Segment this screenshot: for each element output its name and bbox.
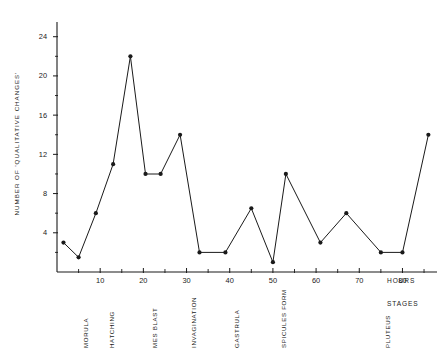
chart-figure: NUMBER OF 'QUALITATIVE CHANGES' 48121620… — [0, 0, 441, 350]
data-point — [197, 250, 201, 254]
data-point — [271, 260, 275, 264]
y-tick-label: 12 — [31, 150, 47, 159]
data-point — [318, 240, 322, 244]
x-tick-label: 60 — [306, 276, 326, 285]
data-point — [223, 250, 227, 254]
x-tick-label: 10 — [90, 276, 110, 285]
data-point — [400, 250, 404, 254]
data-point — [61, 240, 65, 244]
x-tick-label: 20 — [133, 276, 153, 285]
line-chart-plot — [0, 0, 441, 350]
x-tick-label: 50 — [263, 276, 283, 285]
data-point — [128, 54, 132, 58]
x-tick-label: 30 — [177, 276, 197, 285]
y-axis-title: NUMBER OF 'QUALITATIVE CHANGES' — [13, 44, 20, 244]
data-point — [178, 133, 182, 137]
data-point — [426, 133, 430, 137]
data-point — [94, 211, 98, 215]
data-point — [159, 172, 163, 176]
x-tick-label: 70 — [349, 276, 369, 285]
y-tick-label: 24 — [31, 32, 47, 41]
y-tick-label: 20 — [31, 71, 47, 80]
axis-lines — [57, 22, 437, 272]
stage-label: GASTRULA — [233, 310, 240, 348]
stage-label: SPICULES FORM — [280, 289, 287, 348]
data-point-markers — [61, 54, 430, 264]
y-tick-label: 4 — [31, 228, 47, 237]
stage-label: MES BLAST — [151, 307, 158, 348]
x-tick-label: 40 — [220, 276, 240, 285]
data-point — [143, 172, 147, 176]
data-point — [249, 206, 253, 210]
x-axis-unit-label: HOURS — [387, 277, 415, 284]
data-point — [284, 172, 288, 176]
y-tick-label: 8 — [31, 189, 47, 198]
y-tick-label: 16 — [31, 111, 47, 120]
data-point — [111, 162, 115, 166]
data-point — [76, 255, 80, 259]
stage-label: INVAGINATION — [190, 297, 197, 348]
stage-label: HATCHING — [108, 311, 115, 348]
stage-label: MORULA — [82, 318, 89, 348]
data-point — [379, 250, 383, 254]
data-point — [344, 211, 348, 215]
stage-label: PLUTEUS — [384, 315, 391, 348]
data-series-line — [64, 56, 429, 262]
x-axis-category-label: STAGES — [387, 300, 419, 307]
